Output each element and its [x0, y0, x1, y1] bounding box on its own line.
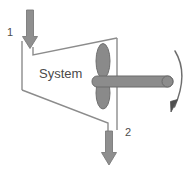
rotation-arrowhead: [171, 100, 178, 113]
outlet-arrow-shape: [102, 131, 117, 165]
system-label: System: [39, 67, 82, 80]
system-diagram: System 1 2: [0, 0, 190, 173]
inlet-stream-label: 1: [7, 27, 13, 38]
shaft-end-cap: [162, 76, 173, 87]
propeller-blade-upper: [96, 44, 110, 79]
shaft-icon: [92, 76, 173, 87]
boundary-bottom-edge: [22, 90, 108, 134]
outlet-stream-label: 2: [125, 127, 131, 138]
diagram-canvas: [0, 0, 190, 173]
rotation-arc: [175, 51, 182, 107]
shaft-body: [92, 76, 173, 87]
arrow-down-icon-outlet: [102, 131, 117, 165]
arrow-down-icon-inlet: [23, 10, 38, 49]
inlet-arrow-shape: [23, 10, 38, 49]
